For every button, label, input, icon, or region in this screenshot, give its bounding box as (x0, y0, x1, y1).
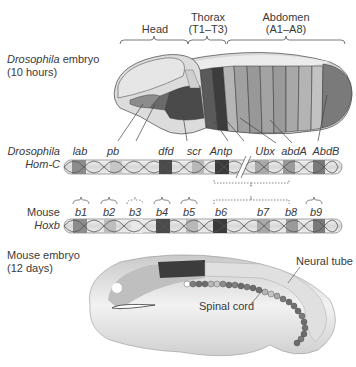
drosophila-embryo-title: Drosophila embryo (7, 53, 99, 66)
spinal-cord-label: Spinal cord (199, 300, 254, 313)
gene-label-ubx: Ubx (250, 145, 280, 158)
gene-label-b7: b7 (252, 206, 274, 219)
hom-c-bar (64, 156, 342, 187)
region-label-head: Head (135, 23, 175, 36)
gene-label-abda: abdA (277, 145, 311, 158)
gene-label-pb: pb (100, 145, 126, 158)
gene-label-dfd: dfd (153, 145, 179, 158)
gene-label-scr: scr (181, 145, 207, 158)
gene-label-b3: b3 (124, 206, 146, 219)
hoxb-brackets (73, 196, 322, 204)
gene-label-b5: b5 (178, 206, 200, 219)
gene-label-b9: b9 (305, 206, 327, 219)
hom-c-species-label: Drosophila (0, 145, 60, 158)
drosophila-embryo-drawing (114, 52, 352, 134)
hom-c-cluster-label: Hom-C (0, 158, 60, 171)
gene-label-abdb: AbdB (309, 145, 343, 158)
region-label-thorax-sub: (T1–T3) (186, 23, 230, 36)
region-brackets (120, 36, 345, 44)
gene-label-lab: lab (67, 145, 93, 158)
hoxb-species-label: Mouse (0, 206, 60, 219)
neural-tube-label: Neural tube (296, 255, 353, 268)
mouse-embryo-age: (12 days) (7, 262, 53, 275)
hoxb-cluster-label: Hoxb (0, 219, 60, 232)
gene-label-antp: Antp (206, 145, 236, 158)
gene-label-b2: b2 (98, 206, 120, 219)
gene-label-b6: b6 (210, 206, 232, 219)
region-label-abdomen-sub: (A1–A8) (256, 23, 316, 36)
mouse-embryo-title: Mouse embryo (7, 249, 80, 262)
gene-label-b8: b8 (280, 206, 302, 219)
drosophila-embryo-age: (10 hours) (7, 66, 57, 79)
gene-label-b1: b1 (70, 206, 92, 219)
hoxb-bar (64, 219, 342, 233)
gene-label-b4: b4 (151, 206, 173, 219)
